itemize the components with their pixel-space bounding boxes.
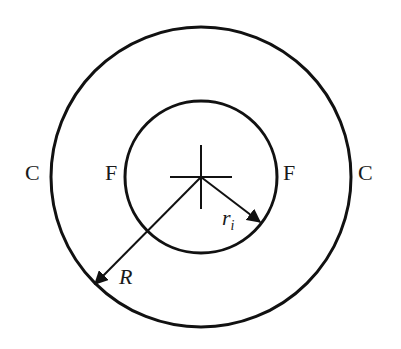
inner-right-label: F [283,162,295,184]
diagram-graphic [0,0,401,349]
concentric-circles-diagram: C C F F R ri [0,0,401,349]
inner-left-label: F [105,162,117,184]
inner-radius-label: ri [222,207,234,229]
inner-radius-label-main: r [222,205,231,230]
outer-radius-label: R [119,266,132,288]
outer-radius-arrow [95,177,201,284]
inner-radius-label-sub: i [231,218,235,233]
outer-left-label: C [25,162,40,184]
outer-right-label: C [358,162,373,184]
